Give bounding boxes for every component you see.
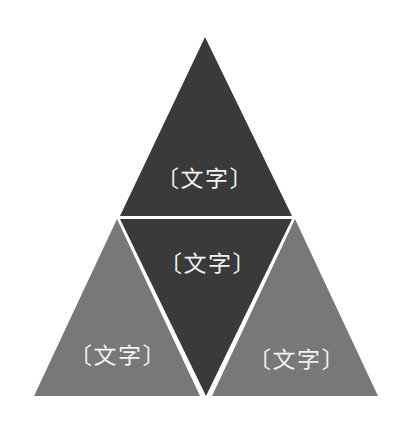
- pyramid-segment-top-label: 〔文字〕: [156, 169, 254, 192]
- pyramid-diagram: 〔文字〕 〔文字〕 〔文字〕 〔文字〕: [0, 0, 409, 431]
- pyramid-segment-middle-label: 〔文字〕: [159, 254, 257, 277]
- pyramid-segment-bottom-right-label: 〔文字〕: [248, 350, 346, 373]
- pyramid-shapes: [0, 0, 409, 431]
- pyramid-segment-bottom-left-label: 〔文字〕: [69, 346, 167, 369]
